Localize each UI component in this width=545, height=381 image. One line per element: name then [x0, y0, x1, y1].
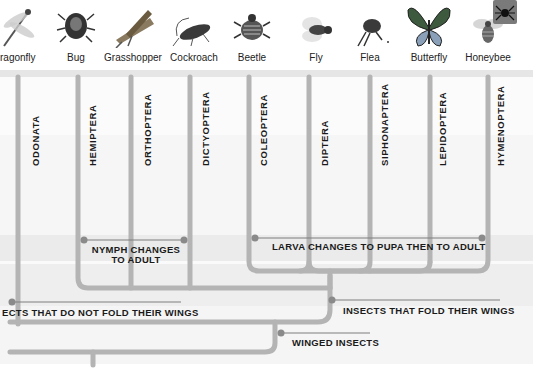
order-diptera: DIPTERA	[318, 76, 332, 166]
order-label: ODONATA	[30, 115, 41, 166]
order-siphonaptera: SIPHONAPTERA	[378, 76, 392, 166]
nymph-label: NYMPH CHANGES TO ADULT	[90, 245, 182, 265]
phylogenetic-tree	[0, 0, 545, 381]
order-hemiptera: HEMIPTERA	[86, 76, 100, 166]
order-lepidoptera: LEPIDOPTERA	[436, 76, 450, 166]
order-odonata: ODONATA	[29, 76, 43, 166]
order-label: ORTHOPTERA	[142, 94, 153, 167]
order-dictyoptera: DICTYOPTERA	[199, 76, 213, 166]
larva-label: LARVA CHANGES TO PUPA THEN TO ADULT	[272, 242, 486, 252]
order-label: DIPTERA	[319, 120, 330, 166]
winged-insects-label: WINGED INSECTS	[292, 338, 379, 348]
order-label: COLEOPTERA	[258, 94, 269, 166]
order-label: HEMIPTERA	[87, 105, 98, 166]
order-hymenoptera: HYMENOPTERA	[494, 76, 508, 166]
fold-wings-label: INSECTS THAT FOLD THEIR WINGS	[343, 306, 515, 316]
nymph-label-line2: TO ADULT	[90, 255, 182, 265]
order-label: LEPIDOPTERA	[437, 92, 448, 166]
order-label: HYMENOPTERA	[495, 86, 506, 167]
no-fold-wings-label: ECTS THAT DO NOT FOLD THEIR WINGS	[2, 308, 199, 318]
order-label: DICTYOPTERA	[200, 91, 211, 166]
order-orthoptera: ORTHOPTERA	[141, 76, 155, 166]
order-coleoptera: COLEOPTERA	[257, 76, 271, 166]
order-label: SIPHONAPTERA	[379, 83, 390, 166]
